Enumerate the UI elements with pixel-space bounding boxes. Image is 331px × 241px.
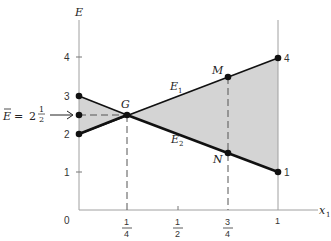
x-tick-half-den: 2 — [175, 229, 180, 239]
label-g: G — [121, 98, 130, 111]
shaded-region-right — [127, 58, 278, 172]
x-tick-label-1: 1 — [275, 216, 280, 226]
point-e2-end — [275, 169, 282, 176]
point-e1-end — [275, 55, 282, 62]
x-tick-quarter-den: 4 — [124, 229, 129, 239]
x-tick-half-num: 1 — [175, 217, 180, 227]
origin-label: 0 — [64, 215, 70, 226]
mean-label-whole: 2 — [29, 110, 36, 123]
y-tick-label-3: 3 — [64, 91, 70, 102]
label-m: M — [211, 64, 224, 77]
point-mean — [76, 112, 83, 119]
point-m — [225, 74, 232, 81]
y-axis-label: E — [74, 6, 83, 19]
y-tick-label-1: 1 — [64, 167, 70, 178]
diagram: E x 1 0 4 3 2 1 1 4 1 2 3 4 1 4 1 G M N … — [0, 0, 331, 241]
mean-label-den: 2 — [39, 115, 44, 124]
point-n — [225, 150, 232, 157]
mean-label-e: E — [2, 110, 11, 123]
y-tick-label-2: 2 — [64, 129, 70, 140]
x-axis-subscript: 1 — [326, 211, 330, 219]
point-e1-start — [76, 131, 83, 138]
label-n: N — [212, 153, 223, 166]
label-e2-sub: 2 — [179, 140, 183, 148]
endpoint-label-4: 4 — [284, 53, 290, 64]
x-tick-three-quarter-num: 3 — [225, 217, 230, 227]
x-axis-label: x — [319, 204, 326, 217]
x-tick-quarter-num: 1 — [124, 217, 129, 227]
endpoint-label-1: 1 — [284, 167, 290, 178]
mean-label-equals: = — [14, 110, 23, 123]
x-tick-three-quarter-den: 4 — [225, 229, 230, 239]
point-e2-start — [76, 93, 83, 100]
label-e1-sub: 1 — [178, 87, 182, 95]
point-g — [124, 112, 131, 119]
y-tick-label-4: 4 — [64, 52, 70, 63]
label-e1: E — [169, 80, 178, 93]
label-e2: E — [170, 133, 179, 146]
mean-label-num: 1 — [39, 105, 44, 114]
